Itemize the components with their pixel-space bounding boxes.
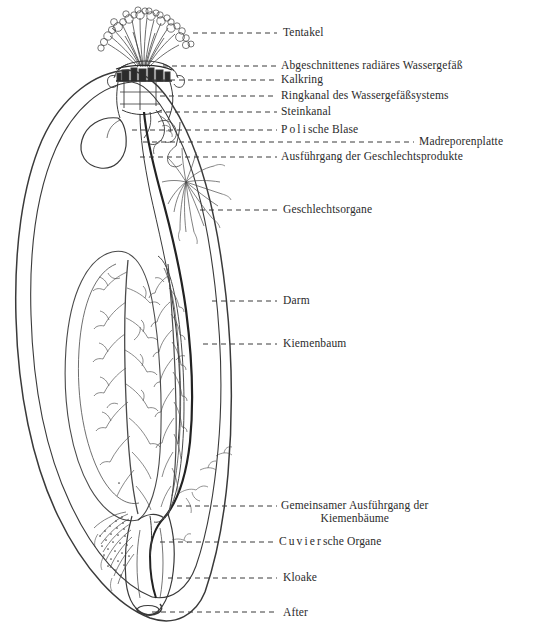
label-kloake: Kloake xyxy=(283,571,317,584)
label-ausfuehrgang-der-geschlechtsprodukte: Ausführgang der Geschlechtsprodukte xyxy=(281,150,463,163)
label-gemeinsamer-ausfuehrgang-der-kiemenbaeume: Gemeinsamer Ausführgang derKiemenbäume xyxy=(281,499,429,525)
label-polische-blase: Polische Blase xyxy=(281,123,358,136)
label-cuviersche-organe: Cuviersche Organe xyxy=(279,535,382,548)
label-kiemenbaum: Kiemenbaum xyxy=(283,337,346,350)
label-polische-blase-rest: sche Blase xyxy=(308,123,358,135)
label-gemeinsamer-ausfuehrgang-der-kiemenbaeume-line1: Gemeinsamer Ausführgang der xyxy=(281,499,429,511)
label-abgeschnittenes-radiaeres-wassergefaess: Abgeschnittenes radiäres Wassergefäß xyxy=(281,59,463,72)
label-madreporenplatte: Madreporenplatte xyxy=(419,135,503,148)
label-tentakel: Tentakel xyxy=(283,26,324,39)
anatomical-figure xyxy=(0,0,545,642)
label-steinkanal: Steinkanal xyxy=(281,105,331,118)
label-polische-blase-spaced: Poli xyxy=(281,123,308,135)
label-gemeinsamer-ausfuehrgang-der-kiemenbaeume-line2: Kiemenbäume xyxy=(281,512,429,525)
label-cuviersche-organe-rest: sche Organe xyxy=(323,535,382,547)
label-cuviersche-organe-spaced: Cuvier xyxy=(279,535,323,547)
label-ringkanal-des-wassergefaesssystems: Ringkanal des Wassergefäßsystems xyxy=(281,89,449,102)
label-geschlechtsorgane: Geschlechtsorgane xyxy=(283,203,372,216)
holothurian-anatomy-drawing xyxy=(0,0,545,642)
label-after: After xyxy=(283,606,308,619)
label-darm: Darm xyxy=(283,294,310,307)
label-kalkring: Kalkring xyxy=(281,73,323,86)
